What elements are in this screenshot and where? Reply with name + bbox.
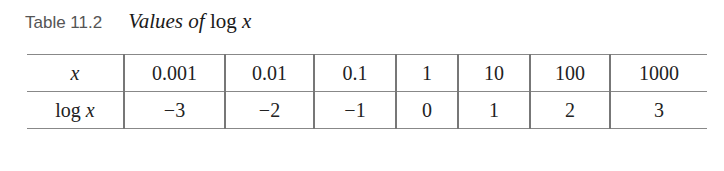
table-row-x: x 0.001 0.01 0.1 1 10 100 1000 [27,55,707,92]
row-header-log-x: log x [27,92,124,129]
table-cell: −1 [314,92,396,129]
table-cell: −2 [225,92,314,129]
row-header-x: x [27,55,124,92]
table-title: Values of log x [128,9,251,34]
table-cell: 1 [396,55,458,92]
table-cell: 0.001 [124,55,225,92]
table-row-log-x: log x −3 −2 −1 0 1 2 3 [27,92,707,129]
table-cell: 1 [458,92,530,129]
table-cell: 0.1 [314,55,396,92]
table-cell: 3 [610,92,707,129]
log-values-table: x 0.001 0.01 0.1 1 10 100 1000 log x −3 … [27,54,707,129]
table-cell: 1000 [610,55,707,92]
table-number: Table 11.2 [25,13,102,33]
table-cell: 2 [530,92,610,129]
table-cell: 0 [396,92,458,129]
table-caption: Table 11.2 Values of log x [25,9,251,34]
table-cell: 100 [530,55,610,92]
table-cell: −3 [124,92,225,129]
table-cell: 0.01 [225,55,314,92]
table-cell: 10 [458,55,530,92]
